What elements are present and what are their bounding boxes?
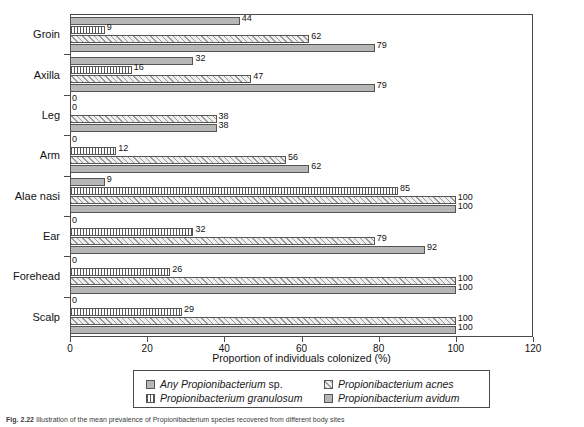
bar[interactable] <box>70 66 132 74</box>
bar[interactable] <box>70 277 456 285</box>
bar[interactable] <box>70 317 456 325</box>
bar[interactable] <box>70 187 398 195</box>
bar[interactable] <box>70 44 375 52</box>
bar-row: 9 <box>70 26 533 34</box>
x-axis-tick <box>70 337 71 342</box>
bar-row: 62 <box>70 165 533 173</box>
legend-item-label-suffix: sp. <box>266 378 283 390</box>
bar[interactable] <box>70 84 375 92</box>
bar-value-label: 0 <box>70 216 77 225</box>
bar[interactable] <box>70 26 105 34</box>
x-axis-tick <box>456 337 457 342</box>
bar[interactable] <box>70 246 425 254</box>
bar[interactable] <box>70 156 286 164</box>
y-axis-category-label: Groin <box>33 28 60 40</box>
bar[interactable] <box>70 228 193 236</box>
bar[interactable] <box>70 124 217 132</box>
bar[interactable] <box>70 75 251 83</box>
legend-box: Any Propionibacterium sp.Propionibacteri… <box>133 370 490 408</box>
bar-row: 38 <box>70 115 533 123</box>
y-axis-category-label: Scalp <box>32 311 60 323</box>
plot-area: 4496279321647790038380125662985100100032… <box>70 14 533 337</box>
y-axis-category-label: Arm <box>40 149 60 161</box>
bar[interactable] <box>70 308 182 316</box>
bar[interactable] <box>70 326 456 334</box>
legend-item-label: Propionibacterium acnes <box>338 378 454 390</box>
bar-row: 47 <box>70 75 533 83</box>
figure-container: GroinAxillaLegArmAlae nasiEarForeheadSca… <box>0 0 584 427</box>
bar-value-label: 79 <box>375 234 387 243</box>
bar-value-label: 38 <box>217 121 229 130</box>
bar-group: 029100100 <box>70 299 533 335</box>
bar-value-label: 62 <box>309 162 321 171</box>
y-axis-tick <box>64 297 70 298</box>
bar-value-label: 47 <box>251 72 263 81</box>
legend-item-label: Propionibacterium avidum <box>338 392 459 404</box>
bar-row: 0 <box>70 219 533 227</box>
legend-item[interactable]: Propionibacterium avidum <box>324 392 459 404</box>
x-axis-tick <box>533 337 534 342</box>
bar-row: 100 <box>70 205 533 213</box>
bar-row: 38 <box>70 124 533 132</box>
legend-item[interactable]: Propionibacterium acnes <box>324 378 454 390</box>
bar-group: 4496279 <box>70 17 533 53</box>
y-axis-category-label: Axilla <box>34 69 60 81</box>
bar-value-label: 100 <box>456 283 473 292</box>
bar-group: 32164779 <box>70 57 533 93</box>
bar-value-label: 85 <box>398 184 410 193</box>
legend-item[interactable]: Propionibacterium granulosum <box>146 392 302 404</box>
bar[interactable] <box>70 35 309 43</box>
y-axis-category-label: Leg <box>42 109 60 121</box>
bar[interactable] <box>70 178 105 186</box>
legend-swatch-icon <box>146 394 155 403</box>
bar[interactable] <box>70 17 240 25</box>
bar-value-label: 16 <box>132 63 144 72</box>
bar-group: 0327992 <box>70 219 533 255</box>
bar[interactable] <box>70 115 217 123</box>
bar-value-label: 44 <box>240 14 252 23</box>
bar-value-label: 0 <box>70 135 77 144</box>
x-axis-tick <box>147 337 148 342</box>
bar-value-label: 100 <box>456 202 473 211</box>
bar-value-label: 9 <box>105 23 112 32</box>
bar[interactable] <box>70 286 456 294</box>
y-axis-tick <box>64 54 70 55</box>
bar-row: 12 <box>70 147 533 155</box>
y-axis-tick <box>64 216 70 217</box>
bar[interactable] <box>70 205 456 213</box>
bar-group: 026100100 <box>70 259 533 295</box>
bar-group: 0125662 <box>70 138 533 174</box>
x-axis-tick <box>379 337 380 342</box>
bar-value-label: 29 <box>182 305 194 314</box>
bar-value-label: 79 <box>375 81 387 90</box>
legend-swatch-icon <box>324 394 333 403</box>
bar[interactable] <box>70 147 116 155</box>
bar[interactable] <box>70 268 170 276</box>
caption-text: Illustration of the mean prevalence of P… <box>34 416 344 423</box>
bar-row: 79 <box>70 44 533 52</box>
bar-row: 44 <box>70 17 533 25</box>
bar-value-label: 100 <box>456 323 473 332</box>
legend-swatch-icon <box>146 380 155 389</box>
bar-row: 16 <box>70 66 533 74</box>
bar-group: 003838 <box>70 97 533 133</box>
bar-row: 0 <box>70 97 533 105</box>
bar-value-label: 62 <box>309 32 321 41</box>
bar[interactable] <box>70 165 309 173</box>
bar-value-label: 12 <box>116 144 128 153</box>
y-axis-category-label: Forehead <box>13 270 60 282</box>
y-axis-tick <box>64 95 70 96</box>
bar[interactable] <box>70 196 456 204</box>
bar-row: 9 <box>70 178 533 186</box>
bar-value-label: 79 <box>375 41 387 50</box>
bar-value-label: 26 <box>170 265 182 274</box>
bar[interactable] <box>70 237 375 245</box>
y-axis-category-label: Ear <box>43 230 60 242</box>
bar-value-label: 0 <box>70 103 77 112</box>
legend-item[interactable]: Any Propionibacterium sp. <box>146 378 283 390</box>
bar-value-label: 56 <box>286 153 298 162</box>
bar-value-label: 9 <box>105 175 112 184</box>
bar-row: 92 <box>70 246 533 254</box>
bar-row: 62 <box>70 35 533 43</box>
bar-row: 56 <box>70 156 533 164</box>
